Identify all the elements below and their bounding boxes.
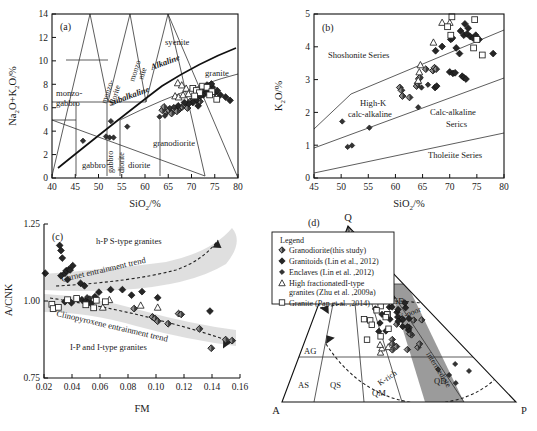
legend-item: Granitoids (Lin et al., 2012) <box>279 257 379 266</box>
x-tick-label: 0.10 <box>148 382 165 392</box>
label-gabbrodiorite-2: diorite <box>117 152 126 173</box>
x-tick-label: 45 <box>309 182 319 192</box>
y-tick-label: 10 <box>39 56 49 66</box>
data-point <box>439 43 446 50</box>
x-tick-label: 0.14 <box>204 382 221 392</box>
data-point <box>432 47 439 54</box>
data-point <box>192 93 198 99</box>
y-tick-label: 1 <box>305 141 310 151</box>
panel-a: monzo- gabbro monzo- diorite monzo nite … <box>0 0 268 216</box>
legend-item-label: Granite (Pan et al. ,2014) <box>289 299 370 308</box>
data-point <box>471 45 477 51</box>
data-point <box>479 52 485 58</box>
legend-item: Granodiorite(this study) <box>279 246 367 255</box>
legend-item-label: Granitoids (Lin et al., 2012) <box>289 257 379 266</box>
label-ip-itype: I-P and I-type granites <box>70 342 147 352</box>
data-point <box>80 138 85 143</box>
data-point <box>472 17 478 23</box>
x-tick-label: 0.04 <box>64 382 81 392</box>
x-tick-label: 0.06 <box>92 382 109 392</box>
data-point <box>416 69 423 75</box>
y-tick-label: 2 <box>305 108 310 118</box>
x-tick-label: 55 <box>117 182 127 192</box>
data-point <box>430 39 437 45</box>
data-point <box>59 255 66 262</box>
data-point <box>364 337 369 342</box>
x-tick-label: 75 <box>472 182 482 192</box>
x-tick-label: 65 <box>164 182 174 192</box>
label-gabbrodiorite-1: gabbro <box>106 151 115 173</box>
y-tick-label: 1.00 <box>23 296 40 306</box>
y-tick-label: 14 <box>39 9 49 19</box>
data-point <box>386 326 391 331</box>
legend-item-label-2: granites (Zhu et al. ,2009a) <box>289 288 376 297</box>
label-calcalk-2: Serics <box>446 119 468 129</box>
x-tick-label: 0.16 <box>232 382 249 392</box>
panel-b-xlabel: SiO2/% <box>393 198 425 212</box>
y-tick-label: 0.75 <box>23 373 40 383</box>
panel-d-tag: (d) <box>308 217 320 229</box>
data-point <box>128 292 135 299</box>
label-monzogabbro-1: monzo- <box>56 88 82 98</box>
data-point <box>456 50 463 57</box>
label-calcalk-1: Calc-alkaline <box>430 107 476 117</box>
data-point <box>65 297 71 303</box>
data-point <box>445 24 451 30</box>
k-rich-arrow <box>326 335 335 344</box>
y-tick-label: 0 <box>305 173 310 183</box>
data-point <box>74 296 80 302</box>
data-point <box>108 118 113 123</box>
apex-label-a: A <box>272 405 280 416</box>
data-points-b <box>340 14 497 150</box>
label-highk-1: High-K <box>360 98 387 108</box>
panel-a-ylabel: Na2O+K2O/% <box>7 66 21 126</box>
y-tick-label: 12 <box>39 33 49 43</box>
label-k-rich: K-rich <box>376 369 398 388</box>
data-point <box>83 302 89 308</box>
data-point <box>207 308 214 315</box>
x-tick-label: 60 <box>140 182 150 192</box>
data-point <box>157 114 162 119</box>
x-tick-label: 70 <box>187 182 197 192</box>
data-point <box>139 288 146 295</box>
panel-d: SG MG GD QD AG AS QS QM K-poor intermedi… <box>268 212 537 431</box>
data-point <box>399 93 406 100</box>
data-point <box>474 37 480 43</box>
data-point <box>93 297 99 303</box>
x-tick-label: 40 <box>47 182 57 192</box>
legend-title: Legend <box>280 236 304 245</box>
label-granodiorite: granodiorite <box>153 138 195 148</box>
x-tick-label: 50 <box>94 182 104 192</box>
data-point <box>466 368 471 373</box>
x-tick-label: 50 <box>336 182 346 192</box>
data-point <box>367 125 372 130</box>
data-point <box>103 299 109 305</box>
data-point <box>125 124 130 129</box>
y-tick-label: 4 <box>43 127 48 137</box>
data-point <box>154 304 161 310</box>
label-ag: AG <box>304 346 316 356</box>
data-point <box>406 94 413 101</box>
x-tick-label: 75 <box>210 182 220 192</box>
data-point <box>490 50 497 57</box>
data-point <box>378 334 383 339</box>
y-tick-label: 3 <box>305 75 310 85</box>
figure-root: monzo- gabbro monzo- diorite monzo nite … <box>0 0 537 431</box>
data-point <box>214 96 220 102</box>
label-hp-stype: h-P S-type granites <box>96 236 162 246</box>
data-point <box>361 316 366 321</box>
panel-c-xlabel: FM <box>134 403 150 414</box>
legend-item-label: Granodiorite(this study) <box>289 246 366 255</box>
x-tick-label: 60 <box>391 182 401 192</box>
x-tick-label: 0.12 <box>176 382 193 392</box>
data-point <box>425 82 430 87</box>
y-tick-label: 8 <box>43 80 48 90</box>
data-point <box>154 294 161 301</box>
legend-item: Enclaves (Lin et al. ,2012) <box>279 268 374 277</box>
label-gabbro: gabbro <box>82 160 106 170</box>
panel-a-tag: (a) <box>60 21 71 33</box>
panel-c-ylabel: A/CNK <box>3 283 14 316</box>
data-point <box>377 320 383 326</box>
data-point <box>207 92 213 98</box>
legend-item: Granite (Pan et al. ,2014) <box>279 299 370 308</box>
